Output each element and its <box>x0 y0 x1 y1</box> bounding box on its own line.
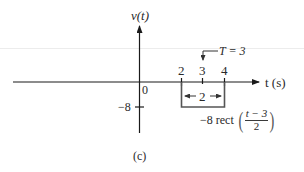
center-annotation: T = 3 <box>219 45 246 57</box>
x-tick-label-2: 2 <box>178 64 185 77</box>
fraction-denominator: 2 <box>245 121 268 133</box>
x-axis-label-text: t (s) <box>265 75 286 90</box>
figure-caption: (c) <box>133 150 146 162</box>
function-prefix: −8 rect <box>200 113 234 127</box>
left-paren: ( <box>238 108 243 132</box>
fraction-numerator: t − 3 <box>245 108 268 121</box>
origin-label: 0 <box>142 84 148 96</box>
center-pointer-arrow <box>203 51 218 60</box>
right-paren: ) <box>270 108 275 132</box>
rect-pulse-diagram <box>0 0 304 172</box>
x-axis-label: t (s) <box>265 76 286 89</box>
y-tick-label: −8 <box>118 101 131 113</box>
y-axis-label-text: v(t) <box>131 8 149 23</box>
x-tick-label-4: 4 <box>221 64 228 77</box>
function-label: −8 rect (t − 32) <box>200 108 276 132</box>
function-fraction: t − 32 <box>245 108 268 132</box>
x-tick-label-3: 3 <box>199 64 206 77</box>
y-axis-label: v(t) <box>131 9 149 22</box>
width-annotation: 2 <box>199 90 206 103</box>
